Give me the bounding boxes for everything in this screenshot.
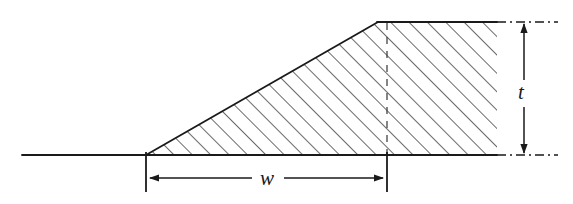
- t-dimension-label: t: [518, 80, 525, 104]
- w-dimension-label: w: [260, 166, 274, 190]
- w-dimension-group: w: [146, 152, 387, 192]
- t-dimension-group: t: [497, 22, 558, 155]
- section-hatch-fill: [146, 22, 497, 155]
- section-diagram: w t: [0, 0, 573, 204]
- diagram-canvas: w t: [0, 0, 573, 204]
